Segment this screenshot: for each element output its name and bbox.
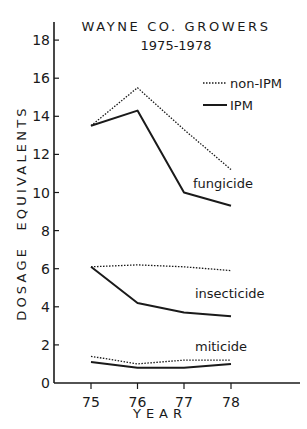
- y-tick-label: 2: [41, 337, 50, 353]
- y-tick-label: 12: [32, 146, 50, 162]
- plot-area: 024681012141618 75767778 non-IPM IPM fun…: [0, 0, 307, 429]
- series-line-miticide-non-ipm: [91, 356, 231, 364]
- y-tick-label: 8: [41, 223, 50, 239]
- x-axis-ticks: 75767778: [82, 383, 240, 410]
- x-tick-label: 78: [222, 394, 240, 410]
- label-insecticide: insecticide: [195, 286, 265, 301]
- y-tick-label: 6: [41, 261, 50, 277]
- y-tick-label: 18: [32, 32, 50, 48]
- label-fungicide: fungicide: [193, 176, 253, 191]
- y-tick-label: 4: [41, 299, 50, 315]
- y-axis-ticks: 024681012141618: [32, 32, 59, 391]
- series-line-miticide-ipm: [91, 362, 231, 368]
- legend-label-non-ipm: non-IPM: [230, 76, 282, 91]
- x-tick-label: 75: [82, 394, 100, 410]
- legend-label-ipm: IPM: [230, 98, 253, 113]
- data-lines: [91, 88, 231, 368]
- x-tick-label: 77: [175, 394, 193, 410]
- y-tick-label: 0: [41, 375, 50, 391]
- y-tick-label: 14: [32, 108, 50, 124]
- series-line-fungicide-ipm: [91, 111, 231, 206]
- series-line-insecticide-non-ipm: [91, 265, 231, 271]
- y-tick-label: 16: [32, 70, 50, 86]
- series-line-fungicide-non-ipm: [91, 88, 231, 170]
- x-tick-label: 76: [129, 394, 147, 410]
- legend: non-IPM IPM: [203, 76, 282, 113]
- y-tick-label: 10: [32, 185, 50, 201]
- label-miticide: miticide: [195, 339, 247, 354]
